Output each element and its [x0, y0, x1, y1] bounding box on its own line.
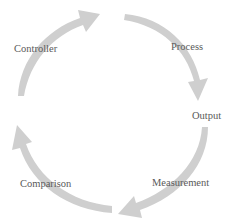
step-label-process: Process [171, 42, 203, 53]
arrow-comparison-icon [12, 125, 112, 213]
arrow-process-icon [124, 14, 208, 101]
step-label-measurement: Measurement [152, 178, 209, 189]
step-label-comparison: Comparison [20, 179, 71, 190]
step-label-controller: Controller [14, 44, 57, 55]
arrow-measurement-icon [118, 127, 208, 218]
feedback-loop-diagram: Controller Process Output Measurement Co… [0, 0, 235, 221]
step-label-output: Output [192, 111, 221, 122]
